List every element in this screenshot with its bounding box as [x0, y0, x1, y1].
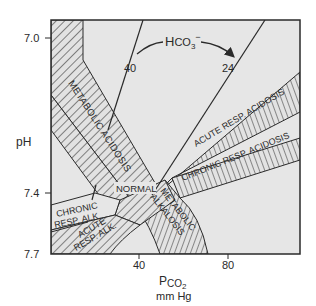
- y-tick-7-7: 7.7: [24, 248, 39, 260]
- x-tick-80: 80: [222, 259, 234, 271]
- x-axis: 40 80 PCO2 mm Hg: [133, 254, 234, 302]
- y-axis: 7.0 7.4 7.7 pH: [16, 32, 51, 260]
- acid-base-nomogram: HCO3− 40 24 METABOLIC ACIDOSIS ACUTE RES…: [0, 0, 316, 306]
- y-tick-7-0: 7.0: [24, 32, 39, 44]
- x-axis-unit: mm Hg: [156, 290, 191, 302]
- x-axis-label: PCO2: [159, 274, 187, 291]
- y-axis-label: pH: [16, 135, 31, 149]
- isopleth-24-label: 24: [222, 62, 234, 74]
- y-tick-7-4: 7.4: [24, 187, 39, 199]
- x-tick-40: 40: [133, 259, 145, 271]
- label-normal: NORMAL: [116, 183, 157, 194]
- isopleth-40-label: 40: [124, 62, 136, 74]
